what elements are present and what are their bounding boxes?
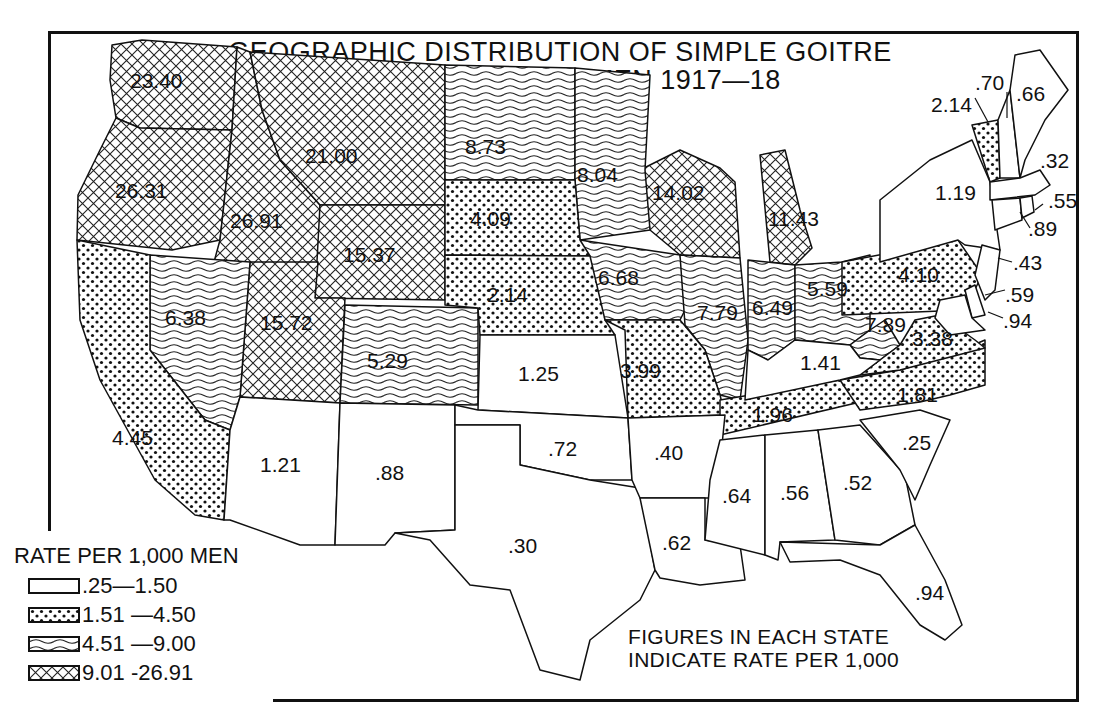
- map-note: FIGURES IN EACH STATE INDICATE RATE PER …: [628, 625, 899, 671]
- label-new-hampshire: .70: [975, 71, 1004, 94]
- state-north-dakota: [445, 65, 575, 180]
- legend-item-crosshatch: 9.01 -26.91: [28, 658, 239, 687]
- label-new-mexico: .88: [375, 461, 404, 484]
- legend-title: RATE PER 1,000 MEN: [14, 543, 239, 569]
- label-ohio: 5.59: [807, 277, 848, 300]
- legend-item-dots: 1.51 —4.50: [28, 600, 239, 629]
- legend-item-blank: .25—1.50: [28, 571, 239, 600]
- note-line-1: FIGURES IN EACH STATE: [628, 625, 899, 648]
- label-washington: 23.40: [130, 69, 183, 92]
- label-new-jersey: .43: [1013, 251, 1042, 274]
- label-colorado: 5.29: [367, 349, 408, 372]
- state-minnesota: [575, 68, 650, 240]
- label-utah: 15.72: [260, 311, 313, 334]
- label-montana: 21.00: [305, 144, 358, 167]
- label-idaho: 26.91: [230, 209, 283, 232]
- label-north-dakota: 8.73: [465, 135, 506, 158]
- crosshatch-pattern-icon: [28, 665, 80, 681]
- state-south-dakota: [445, 180, 590, 256]
- label-alabama: .56: [780, 481, 809, 504]
- waves-pattern-icon: [28, 636, 80, 652]
- label-wyoming: 15.37: [343, 243, 396, 266]
- blank-pattern-icon: [28, 578, 80, 594]
- label-michigan: 11.43: [768, 207, 819, 230]
- note-line-2: INDICATE RATE PER 1,000: [628, 648, 899, 671]
- dots-pattern-icon: [28, 607, 80, 623]
- label-louisiana: .62: [662, 531, 691, 554]
- legend-range: .25—1.50: [82, 573, 177, 599]
- label-indiana: 6.49: [752, 296, 793, 319]
- label-nebraska: 2.14: [487, 283, 528, 306]
- legend-range: 1.51 —4.50: [82, 602, 196, 628]
- label-maine: .66: [1016, 82, 1045, 105]
- label-west-virginia: 7.89: [865, 313, 906, 336]
- state-colorado: [340, 305, 478, 405]
- label-illinois: 7.79: [697, 301, 738, 324]
- label-maryland: .94: [1003, 309, 1033, 332]
- label-oregon: 26.31: [115, 179, 168, 202]
- legend-item-waves: 4.51 —9.00: [28, 629, 239, 658]
- label-kansas: 1.25: [518, 362, 559, 385]
- label-arkansas: .40: [654, 441, 683, 464]
- label-wisconsin: 14.02: [652, 181, 705, 204]
- legend-range: 4.51 —9.00: [82, 631, 196, 657]
- label-south-carolina: .25: [902, 431, 931, 454]
- label-vermont: 2.14: [931, 93, 972, 116]
- label-north-carolina: 1.81: [897, 383, 938, 406]
- label-florida: .94: [915, 581, 945, 604]
- label-pennsylvania: 4.10: [898, 263, 939, 286]
- label-arizona: 1.21: [260, 453, 301, 476]
- label-mississippi: .64: [722, 484, 752, 507]
- label-delaware: .59: [1005, 283, 1034, 306]
- label-massachusetts: .32: [1040, 149, 1069, 172]
- label-nevada: 6.38: [165, 306, 206, 329]
- label-virginia: 3.38: [912, 327, 953, 350]
- label-iowa: 6.68: [598, 266, 639, 289]
- label-oklahoma: .72: [548, 437, 577, 460]
- label-missouri: 3.99: [620, 359, 661, 382]
- label-minnesota: 8.04: [577, 163, 618, 186]
- state-wisconsin: [640, 150, 740, 258]
- state-connecticut: [992, 198, 1022, 230]
- label-south-dakota: 4.09: [470, 207, 511, 230]
- legend: RATE PER 1,000 MEN .25—1.50 1.51 —4.50 4…: [14, 543, 239, 687]
- legend-range: 9.01 -26.91: [82, 660, 193, 686]
- label-kentucky: 1.41: [800, 351, 841, 374]
- label-georgia: .52: [843, 471, 872, 494]
- label-tennessee: 1.96: [752, 403, 793, 426]
- label-california: 4.45: [112, 426, 153, 449]
- label-rhode-island: .55: [1048, 189, 1077, 212]
- label-texas: .30: [508, 534, 537, 557]
- label-new-york: 1.19: [935, 181, 976, 204]
- label-connecticut: .89: [1028, 217, 1057, 240]
